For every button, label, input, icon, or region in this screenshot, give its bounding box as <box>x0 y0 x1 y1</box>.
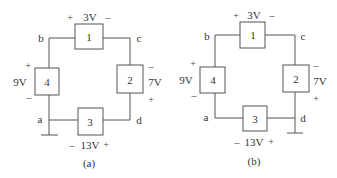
element-3-plus: + <box>268 136 274 147</box>
element-3-label: 3 <box>87 116 93 128</box>
node-a-label: a <box>204 111 209 123</box>
element-1-voltage: 3V <box>247 9 261 21</box>
element-3-minus: – <box>234 137 241 148</box>
node-b-label: b <box>38 32 44 44</box>
node-c-label: c <box>301 30 306 42</box>
caption-b: (b) <box>248 155 261 168</box>
element-3-voltage: 13V <box>81 139 100 151</box>
element-3-minus: – <box>69 140 76 151</box>
element-1-minus: – <box>105 12 112 23</box>
element-2-label: 2 <box>127 74 133 86</box>
element-4-minus: – <box>191 90 198 101</box>
element-2-voltage: 7V <box>148 76 162 88</box>
element-4-minus: – <box>26 92 33 103</box>
node-c-label: c <box>137 32 142 44</box>
element-3-plus: + <box>103 139 109 150</box>
node-d-label: d <box>136 114 142 126</box>
circuit-a: 1 4 2 3 + 3V – + 9V – – 7V + – 13V + b c… <box>13 11 162 170</box>
element-2-voltage: 7V <box>313 75 327 87</box>
ground-icon <box>41 120 58 135</box>
element-2-label: 2 <box>293 73 299 85</box>
element-1-plus: + <box>67 12 73 23</box>
element-1-label: 1 <box>86 31 92 43</box>
node-a-label: a <box>38 113 43 125</box>
circuit-diagrams: 1 4 2 3 + 3V – + 9V – – 7V + – 13V + b c… <box>0 0 337 178</box>
element-4-label: 4 <box>44 76 50 88</box>
element-2-plus: + <box>313 93 319 104</box>
element-1-label: 1 <box>250 29 256 41</box>
element-4-voltage: 9V <box>13 76 27 88</box>
caption-a: (a) <box>83 157 96 170</box>
circuit-b: 1 4 2 3 + 3V – + 9V – – 7V + – 13V + b c… <box>179 9 327 168</box>
element-1-plus: + <box>233 10 239 21</box>
element-4-plus: + <box>190 58 196 69</box>
element-3-label: 3 <box>252 113 258 125</box>
element-2-plus: + <box>148 94 154 105</box>
element-3-voltage: 13V <box>245 136 264 148</box>
element-4-plus: + <box>25 60 31 71</box>
element-2-minus: – <box>313 60 320 71</box>
element-4-voltage: 9V <box>179 74 193 86</box>
element-2-minus: – <box>148 61 155 72</box>
node-b-label: b <box>204 30 210 42</box>
element-1-voltage: 3V <box>83 11 97 23</box>
element-4-label: 4 <box>210 74 216 86</box>
node-d-label: d <box>300 112 306 124</box>
element-1-minus: – <box>269 10 276 21</box>
